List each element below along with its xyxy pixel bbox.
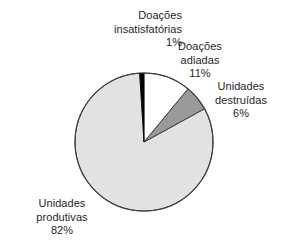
slice-label-line-1: Doações [166,40,234,54]
slice-label-line-1: Unidades [205,80,277,94]
slice-value-unidades-produtivas: 82% [22,224,102,238]
slice-label-unidades-destruidas: Unidades destruídas 6% [205,80,277,121]
slice-label-line-1: Doações [90,9,182,23]
slice-label-line-2: produtivas [22,211,102,225]
slice-label-line-2: insatisfatórias [90,23,182,37]
slice-label-line-2: adiadas [166,54,234,68]
slice-label-unidades-produtivas: Unidades produtivas 82% [22,197,102,238]
slice-value-doacoes-adiadas: 11% [166,67,234,81]
pie-slices [75,73,213,211]
slice-label-doacoes-adiadas: Doações adiadas 11% [166,40,234,81]
pie-chart: Doações insatisfatórias 1% Doações adiad… [0,0,281,249]
slice-label-line-1: Unidades [22,197,102,211]
slice-label-line-2: destruídas [205,94,277,108]
slice-value-unidades-destruidas: 6% [205,107,277,121]
